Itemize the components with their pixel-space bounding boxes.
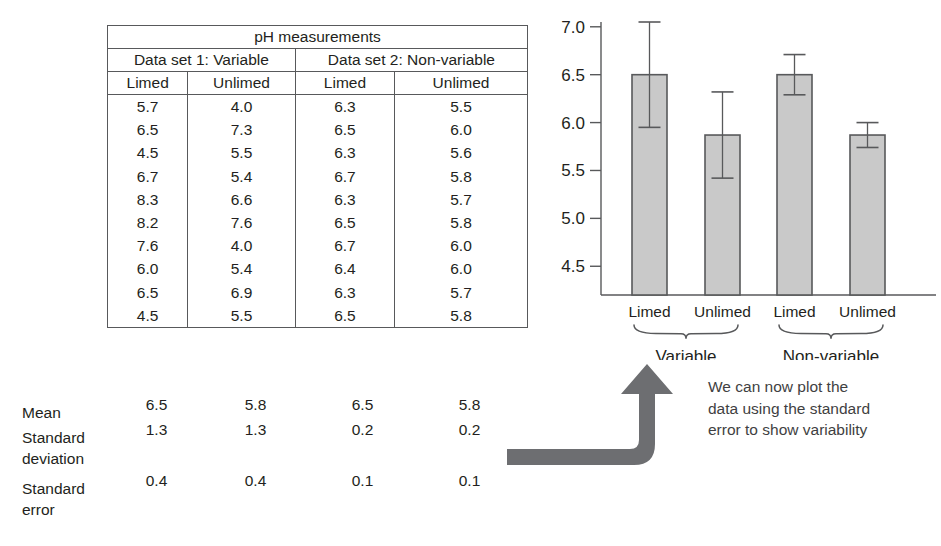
group-brace <box>779 325 883 339</box>
x-axis-category-label: Limed <box>773 303 815 320</box>
y-axis-tick-label: 6.0 <box>561 114 585 133</box>
table-cell: 6.5 <box>108 281 187 304</box>
x-axis-category-label: Unlimed <box>694 303 751 320</box>
table-cell: 6.6 <box>188 188 295 211</box>
table-cell: 7.6 <box>188 211 295 234</box>
table-cell: 5.8 <box>395 304 527 327</box>
table-cell: 6.0 <box>395 234 527 257</box>
table-cell: 6.3 <box>296 188 394 211</box>
stats-se-limed-2: 0.1 <box>313 472 412 490</box>
table-title: pH measurements <box>108 26 528 49</box>
table-title-row: pH measurements <box>108 26 528 49</box>
annotation-text: We can now plot the data using the stand… <box>708 376 923 441</box>
table-cell: 6.7 <box>296 234 394 257</box>
stats-label-mean: Mean <box>22 402 108 423</box>
table-cell: 6.7 <box>108 165 187 188</box>
table-cell: 4.5 <box>108 141 187 164</box>
column-header-unlimed-1: Unlimed <box>188 72 296 95</box>
annotation-line-1: We can now plot the <box>708 376 923 398</box>
table-cell: 4.0 <box>188 234 295 257</box>
table-cell: 6.3 <box>296 281 394 304</box>
stats-se-unlimed-1: 0.4 <box>206 472 305 490</box>
group-brace <box>634 325 738 339</box>
group-label: Non-variable <box>783 347 879 360</box>
x-axis-category-label: Limed <box>628 303 670 320</box>
table-cell: 6.5 <box>108 118 187 141</box>
stats-label-standard-error: Standard error <box>22 478 108 520</box>
table-cell: 7.6 <box>108 234 187 257</box>
data-table-panel: Mean Standard deviation Standard error p… <box>0 0 540 546</box>
table-cell: 5.8 <box>395 165 527 188</box>
table-cell: 6.0 <box>395 257 527 280</box>
annotation-line-3: error to show variability <box>708 419 923 441</box>
stats-mean-limed-1: 6.5 <box>107 396 206 414</box>
stats-se-unlimed-2: 0.1 <box>420 472 519 490</box>
y-axis-tick-label: 4.5 <box>561 257 585 276</box>
table-cell: 5.5 <box>188 141 295 164</box>
table-cell: 6.5 <box>296 118 394 141</box>
bar-chart: 7.06.56.05.55.04.5LimedUnlimedLimedUnlim… <box>540 0 941 360</box>
stats-label-standard-deviation: Standard deviation <box>22 427 108 469</box>
stats-row-standard-error: 0.4 0.4 0.1 0.1 <box>107 472 528 493</box>
table-cell: 5.4 <box>188 257 295 280</box>
bar <box>850 135 885 295</box>
table-cell: 4.5 <box>108 304 187 327</box>
stats-row-standard-deviation: 1.3 1.3 0.2 0.2 <box>107 421 528 442</box>
table-cell: 6.5 <box>296 304 394 327</box>
stats-mean-unlimed-2: 5.8 <box>420 396 519 414</box>
table-cell: 6.0 <box>395 118 527 141</box>
table-group-row: Data set 1: Variable Data set 2: Non-var… <box>108 49 528 72</box>
table-cell: 6.4 <box>296 257 394 280</box>
table-cell: 5.8 <box>395 211 527 234</box>
table-cell: 8.2 <box>108 211 187 234</box>
stats-row-mean: 6.5 5.8 6.5 5.8 <box>107 396 528 417</box>
table-cell: 7.3 <box>188 118 295 141</box>
group-header-dataset-2: Data set 2: Non-variable <box>295 49 527 72</box>
stats-se-limed-1: 0.4 <box>107 472 206 490</box>
table-cell: 6.0 <box>108 257 187 280</box>
table-cell: 5.5 <box>395 95 527 118</box>
table-cell: 6.9 <box>188 281 295 304</box>
table-cell: 5.4 <box>188 165 295 188</box>
group-header-dataset-1: Data set 1: Variable <box>108 49 296 72</box>
x-axis-category-label: Unlimed <box>839 303 896 320</box>
group-label: Variable <box>655 347 716 360</box>
stats-sd-limed-2: 0.2 <box>313 421 412 439</box>
table-cell: 6.5 <box>296 211 394 234</box>
table-cell: 6.3 <box>296 95 394 118</box>
table-column-header-row: Limed Unlimed Limed Unlimed <box>108 72 528 95</box>
column-values-limed-2: 6.36.56.36.76.36.56.76.46.36.5 <box>295 95 394 328</box>
ph-measurements-table: pH measurements Data set 1: Variable Dat… <box>107 25 528 328</box>
y-axis-tick-label: 5.0 <box>561 209 585 228</box>
column-header-limed-2: Limed <box>295 72 394 95</box>
table-cell: 8.3 <box>108 188 187 211</box>
annotation-line-2: data using the standard <box>708 398 923 420</box>
table-cell: 4.0 <box>188 95 295 118</box>
table-cell: 5.5 <box>188 304 295 327</box>
table-cell: 5.7 <box>395 188 527 211</box>
column-values-unlimed-1: 4.07.35.55.46.67.64.05.46.95.5 <box>188 95 296 328</box>
y-axis-tick-label: 5.5 <box>561 161 585 180</box>
stats-sd-limed-1: 1.3 <box>107 421 206 439</box>
stats-sd-unlimed-2: 0.2 <box>420 421 519 439</box>
column-header-limed-1: Limed <box>108 72 188 95</box>
stats-sd-unlimed-1: 1.3 <box>206 421 305 439</box>
table-cell: 6.7 <box>296 165 394 188</box>
arrow-shape <box>507 364 673 465</box>
column-values-limed-1: 5.76.54.56.78.38.27.66.06.54.5 <box>108 95 188 328</box>
column-header-unlimed-2: Unlimed <box>395 72 528 95</box>
callout-arrow <box>507 362 707 482</box>
table-cell: 5.6 <box>395 141 527 164</box>
stats-mean-unlimed-1: 5.8 <box>206 396 305 414</box>
table-cell: 6.3 <box>296 141 394 164</box>
column-values-unlimed-2: 5.56.05.65.85.75.86.06.05.75.8 <box>395 95 528 328</box>
bar <box>777 75 812 295</box>
table-cell: 5.7 <box>108 95 187 118</box>
y-axis-tick-label: 6.5 <box>561 66 585 85</box>
y-axis-tick-label: 7.0 <box>561 18 585 37</box>
table-cell: 5.7 <box>395 281 527 304</box>
table-values-row: 5.76.54.56.78.38.27.66.06.54.5 4.07.35.5… <box>108 95 528 328</box>
stats-mean-limed-2: 6.5 <box>313 396 412 414</box>
